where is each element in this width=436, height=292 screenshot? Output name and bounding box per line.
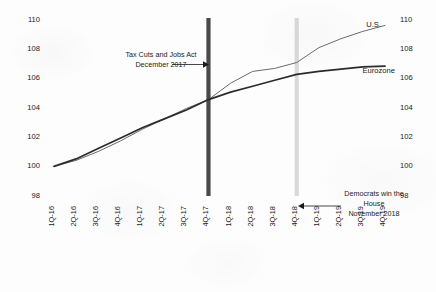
series-line-eurozone [54,66,385,166]
annotation-tax-cuts-jobs-act: Tax Cuts and Jobs Act December 2017 [125,50,209,69]
x-tick-3q-19: 3Q-19 [356,206,365,227]
series-label-us: U.S. [366,20,381,29]
series-labels: U.S. Eurozone [362,20,395,75]
annotation-tax-cuts-line1: Tax Cuts and Jobs Act [125,50,196,59]
x-tick-4q-17: 4Q-17 [201,206,210,227]
y-tick-left-106: 106 [27,73,40,82]
y-tick-left-100: 100 [27,161,40,170]
chart-container: 110 108 106 104 102 100 98 110 108 106 1… [0,0,436,292]
y-tick-left-110: 110 [28,15,40,24]
y-tick-right-100: 100 [400,161,413,170]
event-marker-tax-cuts-jobs-act [206,18,210,196]
x-tick-2q-19: 2Q-19 [334,206,343,227]
y-tick-left-102: 102 [27,132,40,141]
x-tick-3q-18: 3Q-18 [268,206,277,227]
y-tick-left-108: 108 [27,44,40,53]
x-tick-4q-16: 4Q-16 [113,206,122,227]
x-tick-3q-17: 3Q-17 [179,206,188,227]
y-tick-right-102: 102 [400,132,413,141]
x-tick-4q-19: 4Q-19 [378,206,387,227]
x-tick-3q-16: 3Q-16 [91,206,100,227]
arrow-left-icon [298,203,304,209]
y-tick-right-108: 108 [400,44,413,53]
y-tick-right-104: 104 [400,103,413,112]
x-tick-1q-18: 1Q-18 [224,206,233,227]
annotation-democrats-line1: Democrats win the [344,189,404,198]
y-tick-right-110: 110 [400,15,412,24]
x-tick-1q-17: 1Q-17 [135,206,144,227]
y-axis-left: 110 108 106 104 102 100 98 [27,15,40,200]
x-tick-4q-18: 4Q-18 [290,206,299,227]
event-marker-democrats-win-house [295,18,299,196]
event-markers [206,18,298,196]
x-tick-2q-18: 2Q-18 [246,206,255,227]
x-axis: 1Q-162Q-163Q-164Q-161Q-172Q-173Q-174Q-17… [47,206,387,227]
y-tick-left-98: 98 [32,191,40,200]
y-tick-right-106: 106 [400,73,413,82]
y-tick-left-104: 104 [27,103,40,112]
line-chart: 110 108 106 104 102 100 98 110 108 106 1… [0,0,436,292]
x-tick-1q-19: 1Q-19 [312,206,321,227]
y-axis-right: 110 108 106 104 102 100 98 [400,15,413,200]
series-group [54,25,385,166]
x-tick-2q-17: 2Q-17 [157,206,166,227]
x-tick-1q-16: 1Q-16 [47,206,56,227]
series-label-eurozone: Eurozone [362,66,395,75]
x-tick-2q-16: 2Q-16 [69,206,78,227]
